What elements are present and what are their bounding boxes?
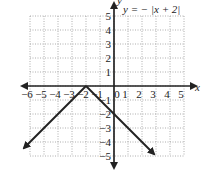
chart-title: y = − |x + 2|	[122, 3, 180, 15]
svg-text:0: 0	[114, 88, 120, 100]
svg-text:2: 2	[136, 88, 142, 100]
svg-text:5: 5	[106, 10, 112, 22]
svg-text:1: 1	[106, 66, 112, 78]
svg-text:4: 4	[164, 88, 170, 100]
svg-text:5: 5	[178, 88, 184, 100]
svg-text:3: 3	[106, 38, 112, 50]
svg-text:−5: −5	[99, 150, 111, 162]
x-axis-label: x	[194, 81, 200, 93]
y-axis-label: y	[116, 0, 122, 6]
svg-text:−3: −3	[99, 122, 111, 134]
graph-canvas: x y −6−5−4−3−2−1012345 54321−1−2−3−4−5 y…	[0, 0, 205, 176]
svg-text:1: 1	[122, 88, 128, 100]
svg-text:−4: −4	[99, 136, 111, 148]
svg-text:4: 4	[106, 24, 112, 36]
svg-text:−5: −5	[35, 88, 47, 100]
svg-text:−6: −6	[21, 88, 33, 100]
svg-text:3: 3	[150, 88, 156, 100]
svg-text:2: 2	[106, 52, 112, 64]
svg-text:−4: −4	[49, 88, 61, 100]
